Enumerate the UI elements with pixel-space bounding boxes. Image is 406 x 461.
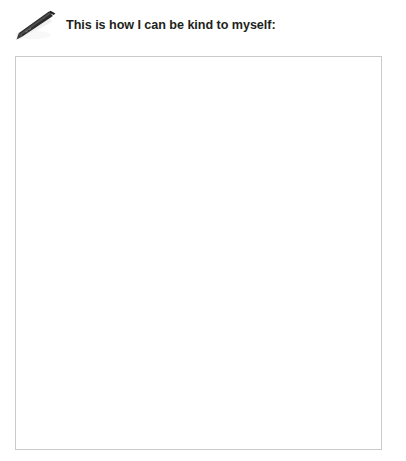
pen-icon xyxy=(8,6,58,42)
answer-box-text[interactable] xyxy=(16,57,381,449)
worksheet-page: This is how I can be kind to myself: xyxy=(0,0,406,461)
prompt-header: This is how I can be kind to myself: xyxy=(0,0,406,50)
answer-box[interactable] xyxy=(15,56,382,450)
page-title: This is how I can be kind to myself: xyxy=(66,18,396,33)
